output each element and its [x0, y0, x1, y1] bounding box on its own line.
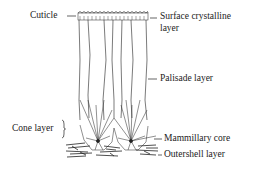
outershell-layer-label: Outershell layer: [164, 149, 225, 160]
surface-crystalline-label-line2: layer: [160, 23, 179, 34]
cuticle-label: Cuticle: [30, 10, 57, 21]
surface-crystalline-band: [78, 12, 148, 21]
cone-layer-label: Cone layer: [12, 123, 53, 134]
mammillary-core-label: Mammillary core: [164, 133, 230, 144]
mammillary-core-left: [96, 139, 99, 142]
surface-crystalline-label-line1: Surface crystalline: [160, 11, 231, 22]
palisade-layer-label: Palisade layer: [160, 73, 213, 84]
outershell-hatching: [66, 143, 158, 157]
cone-layer-bracket: [62, 120, 66, 138]
cone-structures: [80, 100, 156, 150]
eggshell-structure-diagram: [0, 0, 254, 171]
mammillary-core-right: [129, 139, 132, 142]
